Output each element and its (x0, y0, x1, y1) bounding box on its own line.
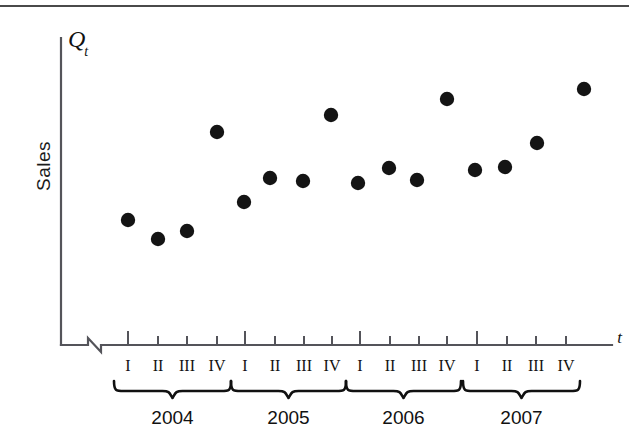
quarter-label: IV (558, 357, 575, 374)
data-point-2006-iv (440, 92, 454, 106)
quarter-label: II (502, 357, 513, 374)
quarter-label: III (411, 357, 427, 374)
quarter-label: I (125, 357, 130, 374)
quarter-label: IV (324, 357, 341, 374)
x-axis-ticks (128, 331, 566, 344)
data-point-2005-i (237, 195, 251, 209)
data-point-2004-i (121, 213, 135, 227)
x-axis-symbol-label: t (617, 328, 623, 347)
quarter-label: IV (439, 357, 456, 374)
quarter-labels: IIIIIIIVIIIIIIIVIIIIIIIVIIIIIIIV (125, 357, 575, 374)
year-brace-2006 (346, 381, 461, 398)
data-point-2004-iv (210, 125, 224, 139)
data-point-2005-ii (263, 171, 277, 185)
quarter-label: II (153, 357, 164, 374)
data-point-2004-ii (151, 232, 165, 246)
data-point-2006-iii (410, 173, 424, 187)
data-point-2006-i (351, 176, 365, 190)
data-point-2007-iii (530, 136, 544, 150)
year-label-2007: 2007 (500, 407, 542, 428)
quarter-label: IV (209, 357, 226, 374)
quarter-label: II (385, 357, 396, 374)
year-label-2005: 2005 (267, 407, 309, 428)
quarter-label: II (270, 357, 281, 374)
quarter-label: I (474, 357, 479, 374)
quarter-label: I (357, 357, 362, 374)
quarter-label: III (179, 357, 195, 374)
year-braces (114, 381, 580, 398)
data-point-2005-iv (324, 108, 338, 122)
data-point-2007-ii (498, 160, 512, 174)
year-brace-2004 (114, 381, 231, 398)
x-axis-line-with-break (61, 338, 612, 352)
chart-figure: Qt Sales t IIIIIIIVIIIIIIIVIIIIIIIVIIIII… (0, 0, 629, 441)
quarter-label: I (242, 357, 247, 374)
quarter-label: III (528, 357, 544, 374)
year-labels: 2004200520062007 (151, 407, 542, 428)
data-point-2005-iii (296, 174, 310, 188)
data-point-2004-iii (180, 224, 194, 238)
year-label-2006: 2006 (382, 407, 424, 428)
year-brace-2005 (231, 381, 346, 398)
year-brace-2007 (463, 381, 580, 398)
data-points (121, 82, 591, 246)
quarter-label: III (296, 357, 312, 374)
year-label-2004: 2004 (151, 407, 194, 428)
data-point-2007-iv (577, 82, 591, 96)
data-point-2007-i (468, 163, 482, 177)
data-point-2006-ii (382, 161, 396, 175)
chart-plot-area: t IIIIIIIVIIIIIIIVIIIIIIIVIIIIIIIV 20042… (0, 0, 629, 441)
